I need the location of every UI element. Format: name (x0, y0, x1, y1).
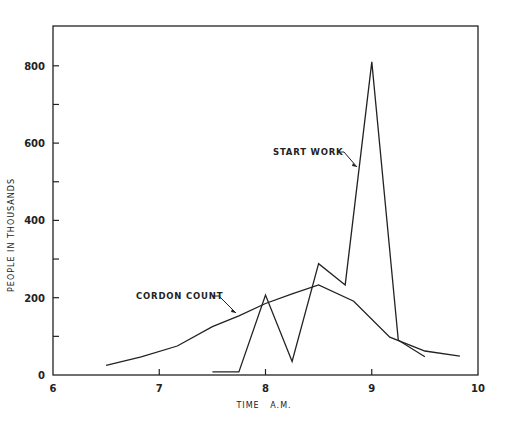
cordon-count-label: CORDON COUNT (136, 291, 223, 301)
annotation-start-work: START WORK (273, 147, 357, 167)
y-tick-label: 0 (38, 370, 45, 381)
x-tick-label: 8 (262, 383, 269, 394)
y-axis-ticks: 0200400600800 (24, 61, 59, 381)
series-lines (106, 62, 460, 372)
y-tick-label: 400 (24, 215, 45, 226)
y-tick-label: 600 (24, 138, 45, 149)
annotation-cordon-count: CORDON COUNT (136, 291, 236, 313)
x-axis-title: TIME A.M. (235, 401, 291, 410)
x-axis-ticks: 678910 (50, 369, 485, 394)
chart: 0200400600800 678910 TIME A.M. PEOPLE IN… (0, 0, 510, 428)
y-tick-label: 200 (24, 293, 45, 304)
x-tick-label: 10 (471, 383, 485, 394)
start-work-label: START WORK (273, 147, 344, 157)
x-tick-label: 9 (368, 383, 375, 394)
x-tick-label: 6 (50, 383, 57, 394)
series-start-work (212, 62, 425, 372)
y-axis-title: PEOPLE IN THOUSANDS (7, 178, 16, 292)
plot-frame (53, 26, 478, 375)
y-tick-label: 800 (24, 61, 45, 72)
x-tick-label: 7 (156, 383, 163, 394)
